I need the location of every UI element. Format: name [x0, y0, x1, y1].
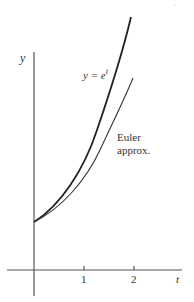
t-axis-label: t	[176, 274, 179, 285]
euler-label: Euler approx.	[117, 131, 150, 157]
euler-label-line1: Euler	[117, 131, 150, 144]
y-axis-label: y	[20, 52, 25, 64]
speck	[174, 4, 175, 5]
plot-area	[0, 0, 194, 302]
euler-label-line2: approx.	[117, 144, 150, 157]
exact-curve-label: y = et	[83, 68, 108, 81]
x-tick-label-2: 2	[131, 274, 137, 285]
exact-curve-label-text: y = e	[83, 69, 106, 81]
exact-curve	[34, 17, 131, 222]
x-tick-label-1: 1	[81, 274, 87, 285]
exact-curve-label-sup: t	[106, 67, 108, 76]
